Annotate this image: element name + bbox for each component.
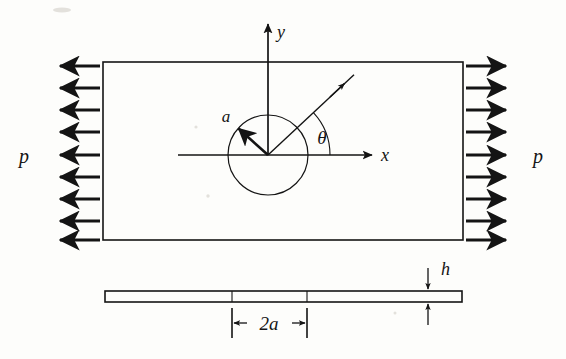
axis-label-y: y [275,22,285,42]
angle-label: θ [317,127,326,148]
load-label-right: p [531,145,543,168]
stress-diagram-figure: p p x y a θ h 2a [0,0,566,359]
load-arrows-right [466,66,506,240]
load-arrows-left [60,66,100,240]
side-view-bar [105,291,462,302]
radius-label: a [222,107,231,126]
radius-arrow [239,129,269,156]
plate-outline [103,62,463,240]
figure-canvas: p p x y a θ h 2a [0,0,566,359]
thickness-label: h [441,259,450,279]
axis-label-x: x [380,145,389,165]
coordinate-axes [178,24,372,155]
load-label-left: p [17,145,29,168]
paper-texture [53,8,397,315]
theta-ray [268,75,354,155]
hole-width-label: 2a [260,313,279,334]
